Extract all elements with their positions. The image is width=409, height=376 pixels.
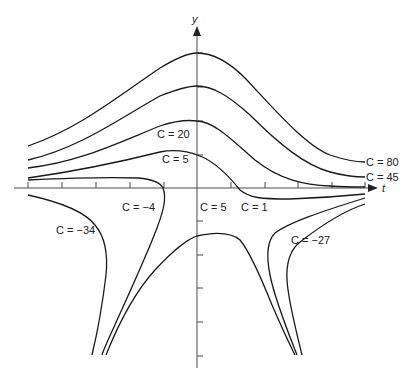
y-axis-label: y: [191, 13, 199, 25]
y-axis-arrow-icon: [193, 26, 201, 36]
curve-c1: [268, 198, 365, 355]
y-axis: [193, 26, 203, 368]
label-c45: C = 45: [366, 171, 399, 183]
curve-cm34: [28, 195, 107, 355]
label-c20: C = 20: [157, 128, 190, 140]
label-cm4: C = −4: [122, 201, 155, 213]
curve-cm27: [287, 204, 365, 355]
label-c80: C = 80: [366, 156, 399, 168]
t-axis-arrow-icon: [368, 184, 378, 192]
solution-curves-diagram: y t C = 80 C = 45 C = 20 C = 5 C = −4 C …: [0, 0, 409, 376]
label-cm27: C = −27: [291, 234, 330, 246]
t-axis: [14, 182, 378, 192]
curve-c5-lower: [106, 233, 295, 355]
label-c5-lower: C = 5: [200, 201, 227, 213]
t-axis-label: t: [382, 182, 386, 194]
label-c1: C = 1: [241, 201, 268, 213]
label-c5-upper: C = 5: [162, 153, 189, 165]
label-cm34: C = −34: [56, 224, 95, 236]
